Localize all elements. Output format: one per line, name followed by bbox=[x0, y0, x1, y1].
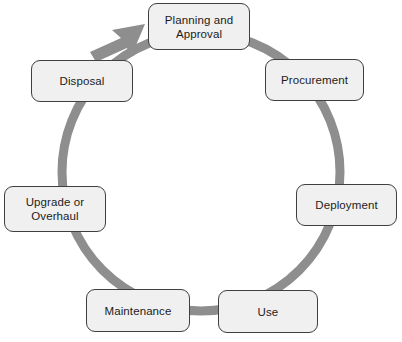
node-use[interactable]: Use bbox=[218, 290, 318, 333]
node-label-maintenance: Maintenance bbox=[101, 304, 176, 318]
node-label-planning-and-approval: Planning and Approval bbox=[161, 13, 237, 41]
node-deployment[interactable]: Deployment bbox=[296, 184, 397, 226]
node-label-upgrade-or-overhaul: Upgrade or Overhaul bbox=[22, 195, 89, 223]
asset-lifecycle-cycle-diagram: Planning and Approval Procurement Deploy… bbox=[0, 0, 402, 342]
node-label-procurement: Procurement bbox=[277, 73, 352, 87]
node-disposal[interactable]: Disposal bbox=[31, 60, 133, 102]
node-label-deployment: Deployment bbox=[311, 198, 381, 212]
node-procurement[interactable]: Procurement bbox=[265, 59, 364, 101]
cycle-ring-graphic bbox=[0, 0, 402, 342]
node-planning-and-approval[interactable]: Planning and Approval bbox=[148, 3, 250, 50]
node-maintenance[interactable]: Maintenance bbox=[86, 289, 190, 332]
node-label-use: Use bbox=[254, 305, 283, 319]
node-upgrade-or-overhaul[interactable]: Upgrade or Overhaul bbox=[4, 186, 106, 232]
node-label-disposal: Disposal bbox=[56, 74, 109, 88]
